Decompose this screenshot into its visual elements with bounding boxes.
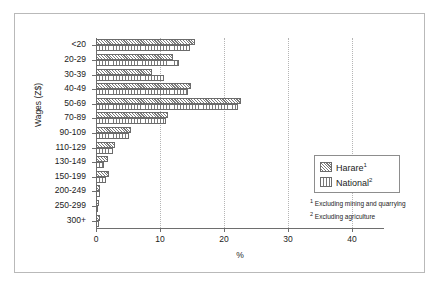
x-tick-label: 40 (337, 234, 367, 244)
y-tick-label: <20 (0, 40, 86, 49)
x-tick-mark (224, 228, 225, 232)
x-tick-label: 20 (209, 234, 239, 244)
y-tick-label: 70-89 (0, 113, 86, 122)
bar-national (96, 206, 98, 212)
y-tick-label: 40-49 (0, 84, 86, 93)
bar-national (96, 191, 100, 197)
legend-item-harare[interactable]: Harare1 (320, 160, 367, 174)
footnote-marker: 1 (310, 198, 313, 204)
gridline-10 (160, 38, 161, 228)
gridline-30 (288, 38, 289, 228)
footnote: 1 Excluding mining and quarrying (310, 196, 430, 209)
y-tick-label: 130-149 (0, 157, 86, 166)
y-tick-label: 20-29 (0, 55, 86, 64)
x-tick-label: 30 (273, 234, 303, 244)
legend-label: National2 (336, 177, 372, 188)
bar-national (96, 118, 166, 124)
bar-national (96, 148, 113, 154)
legend-label: Harare1 (336, 162, 367, 173)
y-tick-label: 90-109 (0, 128, 86, 137)
y-tick-label: 300+ (0, 216, 86, 225)
bar-national (96, 162, 104, 168)
bar-national (96, 75, 164, 81)
bar-national (96, 89, 188, 95)
x-tick-mark (288, 228, 289, 232)
bar-national (96, 60, 179, 66)
y-tick-label: 150-199 (0, 172, 86, 181)
bar-national (96, 221, 99, 227)
x-tick-label: 10 (145, 234, 175, 244)
x-axis-label: % (96, 250, 384, 260)
chart-footnotes: 1 Excluding mining and quarrying2 Exclud… (310, 196, 430, 222)
legend-footnote-marker: 2 (369, 177, 372, 183)
legend-swatch-national-icon (320, 177, 332, 187)
y-tick-label: 200-249 (0, 186, 86, 195)
y-tick-label: 30-39 (0, 70, 86, 79)
legend-footnote-marker: 1 (364, 162, 367, 168)
gridline-20 (224, 38, 225, 228)
y-axis-label: Wages (Z$) (33, 45, 43, 165)
x-tick-mark (96, 228, 97, 232)
legend-item-national[interactable]: National2 (320, 175, 372, 189)
chart-figure: 010203040 <2020-2930-3940-4950-6970-8990… (0, 0, 438, 291)
x-tick-mark (352, 228, 353, 232)
x-axis-line (96, 228, 384, 229)
bar-national (96, 104, 238, 110)
legend-swatch-harare-icon (320, 162, 332, 172)
footnote: 2 Excluding agriculture (310, 209, 430, 222)
bar-national (96, 45, 190, 51)
x-tick-mark (160, 228, 161, 232)
footnote-marker: 2 (310, 211, 313, 217)
bar-national (96, 133, 129, 139)
y-tick-label: 250-299 (0, 201, 86, 210)
x-tick-label: 0 (81, 234, 111, 244)
y-tick-label: 110-129 (0, 143, 86, 152)
bar-national (96, 177, 106, 183)
y-tick-label: 50-69 (0, 99, 86, 108)
chart-legend[interactable]: Harare1National2 (314, 155, 400, 193)
